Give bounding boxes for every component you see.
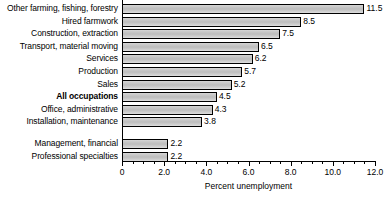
bar-row: Management, financial2.2 <box>122 139 375 149</box>
x-axis-title: Percent unemployment <box>122 181 375 191</box>
axis-tick-label: 2.0 <box>158 167 170 177</box>
axis-minor-tick <box>143 161 144 164</box>
bar-value-label: 5.7 <box>244 66 256 76</box>
bar-row: Production5.7 <box>122 67 375 77</box>
bar-row: Installation, maintenance3.8 <box>122 117 375 127</box>
axis-tick-label: 4.0 <box>200 167 212 177</box>
bar-value-label: 6.5 <box>261 41 273 51</box>
bar <box>122 105 213 115</box>
bar-value-label: 5.2 <box>234 79 246 89</box>
axis-major-tick <box>249 161 250 166</box>
axis-minor-tick <box>343 161 344 164</box>
category-label: Installation, maintenance <box>26 116 118 126</box>
bar-value-label: 11.5 <box>366 3 382 13</box>
bar-row: Office, administrative4.3 <box>122 105 375 115</box>
axis-minor-tick <box>259 161 260 164</box>
bar <box>122 139 168 149</box>
category-label: Hired farmwork <box>62 16 118 26</box>
category-label: Other farming, fishing, forestry <box>7 3 118 13</box>
axis-minor-tick <box>364 161 365 164</box>
axis-minor-tick <box>270 161 271 164</box>
axis-tick-label: 8.0 <box>285 167 297 177</box>
bar-chart: Other farming, fishing, forestry11.5Hire… <box>0 0 391 198</box>
axis-major-tick <box>333 161 334 166</box>
category-label: Transport, material moving <box>20 41 118 51</box>
axis-major-tick <box>122 161 123 166</box>
axis-minor-tick <box>154 161 155 164</box>
category-label: Services <box>86 53 118 63</box>
axis-minor-tick <box>354 161 355 164</box>
bar <box>122 29 280 39</box>
category-label: Office, administrative <box>41 104 118 114</box>
category-label: Management, financial <box>35 138 118 148</box>
bar <box>122 117 202 127</box>
axis-minor-tick <box>185 161 186 164</box>
category-label: All occupations <box>56 91 118 101</box>
axis-major-tick <box>206 161 207 166</box>
bar-row: Hired farmwork8.5 <box>122 17 375 27</box>
axis-major-tick <box>291 161 292 166</box>
axis-major-tick <box>164 161 165 166</box>
bar <box>122 42 259 52</box>
bar-value-label: 7.5 <box>282 28 294 38</box>
axis-minor-tick <box>227 161 228 164</box>
category-label: Professional specialties <box>32 151 118 161</box>
axis-tick-label: 12.0 <box>367 167 384 177</box>
category-label: Production <box>78 66 118 76</box>
axis-minor-tick <box>238 161 239 164</box>
bar-value-label: 3.8 <box>204 116 216 126</box>
bar <box>122 92 217 102</box>
axis-minor-tick <box>280 161 281 164</box>
bar-row: Sales5.2 <box>122 80 375 90</box>
bar-row: Services6.2 <box>122 54 375 64</box>
axis-minor-tick <box>133 161 134 164</box>
bar-value-label: 2.2 <box>170 138 182 148</box>
axis-tick-label: 10.0 <box>325 167 342 177</box>
bar <box>122 17 301 27</box>
bar <box>122 67 242 77</box>
axis-tick-label: 0 <box>120 167 125 177</box>
bar-value-label: 4.3 <box>215 104 227 114</box>
bar <box>122 152 168 162</box>
bar-value-label: 8.5 <box>303 16 315 26</box>
axis-major-tick <box>375 161 376 166</box>
bar-row: Construction, extraction7.5 <box>122 29 375 39</box>
bar <box>122 54 253 64</box>
bar <box>122 80 232 90</box>
bar-value-label: 2.2 <box>170 151 182 161</box>
bar-value-label: 6.2 <box>255 53 267 63</box>
bar-row: Other farming, fishing, forestry11.5 <box>122 4 375 14</box>
axis-minor-tick <box>301 161 302 164</box>
bar-row: All occupations4.5 <box>122 92 375 102</box>
axis-tick-label: 6.0 <box>243 167 255 177</box>
bar-row: Transport, material moving6.5 <box>122 42 375 52</box>
category-label: Construction, extraction <box>31 28 118 38</box>
bar-value-label: 4.5 <box>219 91 231 101</box>
axis-minor-tick <box>322 161 323 164</box>
axis-minor-tick <box>175 161 176 164</box>
axis-minor-tick <box>217 161 218 164</box>
bar <box>122 4 364 14</box>
axis-minor-tick <box>312 161 313 164</box>
category-label: Sales <box>97 79 118 89</box>
axis-minor-tick <box>196 161 197 164</box>
